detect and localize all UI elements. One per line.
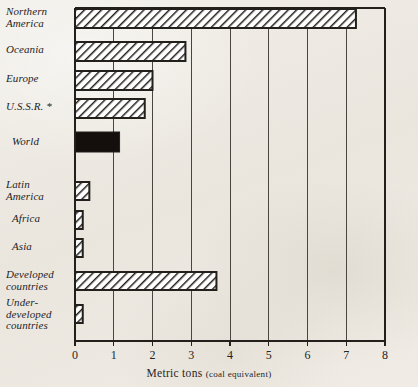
- x-tick-label: 8: [375, 348, 395, 363]
- category-label: Developed countries: [6, 269, 54, 292]
- category-label: Africa: [12, 213, 40, 225]
- x-tick-label: 2: [143, 348, 163, 363]
- bar: [75, 99, 145, 118]
- bar: [75, 239, 83, 257]
- category-label: Asia: [12, 241, 32, 253]
- bar: [75, 305, 83, 323]
- x-axis-title-note: (coal equivalent): [206, 369, 272, 379]
- category-label: Northern America: [6, 6, 47, 29]
- x-tick-label: 3: [181, 348, 201, 363]
- x-axis-title-main: Metric tons: [146, 367, 202, 379]
- bar-chart-figure: Northern AmericaOceaniaEuropeU.S.S.R. *W…: [0, 0, 418, 387]
- x-tick-label: 7: [336, 348, 356, 363]
- plot-area: [0, 0, 418, 387]
- bar: [75, 42, 185, 61]
- category-label: U.S.S.R. *: [6, 101, 52, 113]
- bar: [75, 9, 356, 28]
- x-tick-label: 0: [65, 348, 85, 363]
- x-tick-label: 5: [259, 348, 279, 363]
- x-tick-label: 4: [220, 348, 240, 363]
- bar: [75, 211, 83, 229]
- category-label: Latin America: [6, 179, 44, 202]
- category-label: Europe: [6, 73, 39, 85]
- x-axis-title: Metric tons (coal equivalent): [0, 367, 418, 379]
- bar: [75, 132, 120, 152]
- x-tick-label: 1: [104, 348, 124, 363]
- category-label: World: [12, 136, 39, 148]
- bars: [75, 9, 356, 323]
- category-label: Under- developed countries: [6, 297, 52, 332]
- bar: [75, 272, 216, 290]
- category-label: Oceania: [6, 44, 44, 56]
- x-tick-label: 6: [298, 348, 318, 363]
- bar: [75, 71, 153, 90]
- bar: [75, 182, 89, 200]
